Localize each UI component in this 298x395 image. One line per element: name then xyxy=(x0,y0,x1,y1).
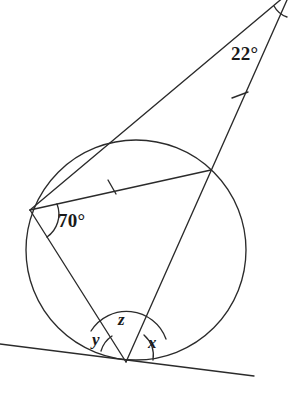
tick-mark-secant xyxy=(232,92,248,98)
secant-apex-to-left-vertex xyxy=(30,0,291,210)
label-apex-angle-22: 22° xyxy=(231,44,258,63)
label-inscribed-angle-70: 70° xyxy=(58,211,85,230)
main-circle xyxy=(26,140,246,360)
secant-apex-to-tangent-point xyxy=(126,0,291,362)
label-angle-z: z xyxy=(118,311,125,328)
chord-left-vertex-to-tangent-point xyxy=(30,210,126,362)
label-angle-x: x xyxy=(148,334,157,351)
label-angle-y: y xyxy=(92,331,100,348)
diagram-canvas: 22° 70° z y x xyxy=(0,0,298,395)
